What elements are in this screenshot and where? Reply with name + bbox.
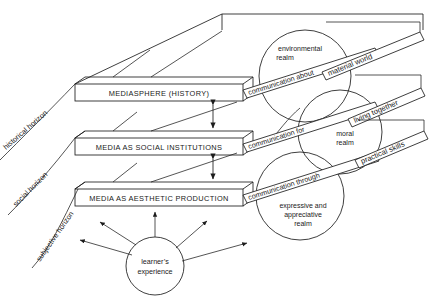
realm-label-environmental-line2: realm bbox=[276, 54, 294, 61]
realm-label-environmental-line1: environmental bbox=[278, 45, 322, 52]
diagram-canvas: MEDIASPHERE (HISTORY) MEDIA AS SOCIAL IN… bbox=[0, 0, 433, 308]
outcome-label-practical-skills: practical skills bbox=[359, 139, 406, 166]
learner-label-line1: learner’s bbox=[141, 257, 169, 266]
level-label-aesthetic: MEDIA AS AESTHETIC PRODUCTION bbox=[89, 194, 229, 203]
realm-label-moral-line1: moral bbox=[336, 130, 354, 137]
mediasphere-diagram: MEDIASPHERE (HISTORY) MEDIA AS SOCIAL IN… bbox=[0, 0, 433, 308]
horizon-label-social: social horizon bbox=[11, 170, 49, 208]
realm-label-expressive-line2: appreciative bbox=[284, 211, 322, 219]
communication-label-about: communication about bbox=[247, 68, 315, 97]
horizon-label-historical: historical horizon bbox=[1, 108, 49, 151]
communication-label-through: communication through bbox=[247, 171, 321, 202]
learner-radiating-arrows bbox=[80, 212, 247, 261]
communication-label-for: communication for bbox=[247, 124, 306, 151]
realm-label-expressive-line1: expressive and bbox=[279, 202, 326, 210]
realm-label-expressive-line3: realm bbox=[294, 220, 312, 227]
learner-label-line2: experience bbox=[137, 267, 172, 276]
learner-experience-circle[interactable] bbox=[126, 237, 184, 295]
level-label-institutions: MEDIA AS SOCIAL INSTITUTIONS bbox=[96, 143, 223, 152]
horizon-label-subjective: subjective horizon bbox=[34, 210, 75, 264]
level-label-mediasphere: MEDIASPHERE (HISTORY) bbox=[109, 89, 210, 98]
realm-label-moral-line2: realm bbox=[336, 139, 354, 146]
